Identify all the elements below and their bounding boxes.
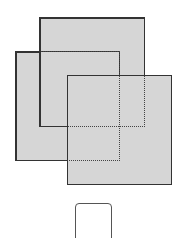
back-square-solid-right xyxy=(144,17,146,76)
left-square-solid-left xyxy=(15,51,17,161)
small-card xyxy=(75,203,112,238)
diagram-canvas xyxy=(0,0,182,238)
back-square-solid-bottom xyxy=(39,126,68,128)
back-square-solid-top xyxy=(39,17,145,19)
left-square-solid-bottom xyxy=(15,160,68,162)
left-square-solid-top xyxy=(15,51,40,53)
back-square-solid-left xyxy=(39,17,41,127)
front-square-outline xyxy=(67,75,172,185)
